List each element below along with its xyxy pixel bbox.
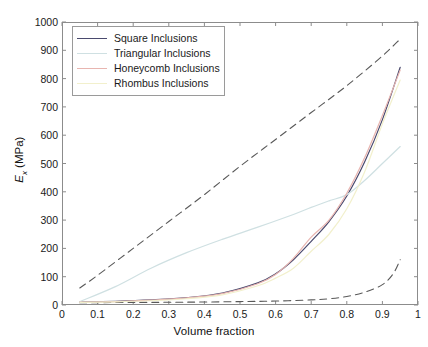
legend-item: Triangular Inclusions: [77, 46, 219, 61]
x-tick-label: 0.1: [90, 309, 105, 320]
legend-label: Honeycomb Inclusions: [114, 63, 220, 74]
series-line: [80, 260, 400, 303]
x-tick-label: 0.8: [339, 309, 354, 320]
x-tick-label: 0.3: [161, 309, 176, 320]
x-tick-label: 0.6: [268, 309, 283, 320]
x-tick-label: 1: [415, 309, 421, 320]
legend-color-swatch: [77, 68, 107, 69]
legend-color-swatch: [77, 38, 107, 39]
x-tick-label: 0.5: [233, 309, 248, 320]
x-tick-label: 0.2: [126, 309, 141, 320]
series-line: [80, 147, 400, 302]
legend-color-swatch: [77, 83, 107, 84]
x-tick-label: 0: [59, 309, 65, 320]
x-tick-label: 0.7: [304, 309, 319, 320]
y-axis-label: Ex (MPa): [13, 95, 28, 225]
legend-item: Honeycomb Inclusions: [77, 61, 219, 76]
x-tick-label: 0.4: [197, 309, 212, 320]
chart-legend: Square InclusionsTriangular InclusionsHo…: [72, 26, 225, 96]
legend-label: Square Inclusions: [114, 33, 197, 44]
legend-item: Square Inclusions: [77, 31, 219, 46]
x-tick-label: 0.9: [375, 309, 390, 320]
legend-color-swatch: [77, 53, 107, 54]
x-axis-label: Volume fraction: [0, 325, 428, 337]
legend-item: Rhombus Inclusions: [77, 76, 219, 91]
chart-figure: 01002003004005006007008009001000 Square …: [0, 0, 428, 347]
legend-label: Triangular Inclusions: [114, 48, 211, 59]
legend-label: Rhombus Inclusions: [114, 78, 209, 89]
